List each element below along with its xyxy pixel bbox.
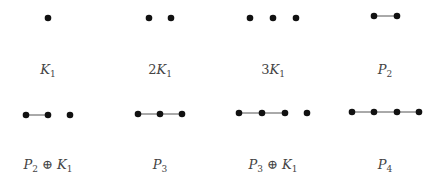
graph-vertex — [371, 13, 378, 20]
graph-label: P2⊕K1 — [24, 158, 73, 174]
label-symbol: K1 — [156, 62, 171, 77]
graph-vertex — [247, 15, 254, 22]
label-symbol: P2 — [378, 62, 392, 77]
graph-label: P3 — [153, 158, 167, 174]
label-symbol: P2 — [24, 157, 38, 172]
graph-vertex — [45, 15, 52, 22]
graph-vertex — [168, 15, 175, 22]
graph-vertex — [67, 112, 74, 119]
graph-vertex — [236, 110, 243, 117]
direct-sum-operator: ⊕ — [267, 157, 278, 172]
label-symbol: P3 — [249, 157, 263, 172]
graph-p3 — [135, 111, 186, 118]
graph-label: 3K1 — [261, 63, 285, 79]
graph-2k1 — [146, 15, 175, 22]
graph-vertex — [23, 112, 30, 119]
label-symbol: K1 — [269, 62, 284, 77]
graph-label: P4 — [378, 158, 392, 174]
direct-sum-operator: ⊕ — [42, 157, 53, 172]
graph-label: P2 — [378, 63, 392, 79]
label-subscript: 4 — [387, 164, 393, 174]
graph-vertex — [349, 109, 356, 116]
label-symbol: K1 — [57, 157, 72, 172]
label-subscript: 1 — [67, 164, 73, 174]
label-subscript: 1 — [166, 69, 172, 79]
graph-p2 — [371, 13, 401, 20]
graph-vertex — [135, 111, 142, 118]
graph-p4 — [349, 109, 423, 116]
graph-label: 2K1 — [148, 63, 172, 79]
graph-vertex — [293, 15, 300, 22]
label-subscript: 3 — [162, 164, 168, 174]
graph-figure — [0, 0, 444, 179]
graph-vertex — [394, 13, 401, 20]
graph-p3-k1 — [236, 110, 311, 117]
graph-vertex — [394, 109, 401, 116]
graph-vertex — [259, 110, 266, 117]
graph-vertex — [270, 15, 277, 22]
graph-vertex — [416, 109, 423, 116]
graph-label: K1 — [40, 63, 55, 79]
graph-vertex — [157, 111, 164, 118]
label-symbol: K1 — [282, 157, 297, 172]
graph-vertex — [179, 111, 186, 118]
label-symbol: K1 — [40, 62, 55, 77]
graph-3k1 — [247, 15, 300, 22]
label-subscript: 1 — [292, 164, 298, 174]
graph-vertex — [45, 112, 52, 119]
label-subscript: 3 — [257, 164, 263, 174]
graph-vertex — [371, 109, 378, 116]
label-subscript: 1 — [279, 69, 285, 79]
label-subscript: 2 — [32, 164, 38, 174]
graph-k1 — [45, 15, 52, 22]
graph-vertex — [304, 110, 311, 117]
label-subscript: 1 — [50, 69, 56, 79]
graph-vertex — [282, 110, 289, 117]
graph-vertex — [146, 15, 153, 22]
label-subscript: 2 — [387, 69, 393, 79]
label-symbol: P3 — [153, 157, 167, 172]
graph-p2-k1 — [23, 112, 74, 119]
label-symbol: P4 — [378, 157, 392, 172]
graph-label: P3⊕K1 — [249, 158, 298, 174]
